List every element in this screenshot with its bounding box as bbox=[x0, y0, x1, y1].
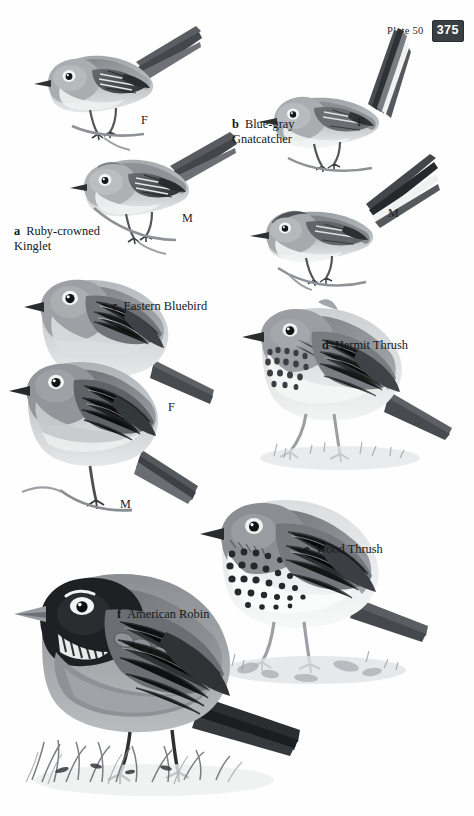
gnatcatcher-male-illustration bbox=[238, 140, 448, 290]
mark-bluebird-male: M bbox=[120, 497, 131, 512]
caption-blue-gray-gnatcatcher: bBlue-gray Gnatcatcher bbox=[232, 102, 294, 147]
species-name-d: Hermit Thrush bbox=[335, 338, 408, 352]
bluebird-male-illustration bbox=[0, 340, 210, 540]
figure-eastern-bluebird-male bbox=[0, 340, 210, 540]
figure-blue-gray-gnatcatcher-male bbox=[238, 140, 448, 290]
caption-american-robin: fAmerican Robin bbox=[117, 592, 209, 622]
species-key-d: d bbox=[322, 338, 329, 352]
species-key-c: c bbox=[112, 299, 118, 313]
mark-kinglet-female: F bbox=[141, 113, 148, 128]
mark-gnatcatcher-male: M bbox=[388, 206, 399, 221]
species-key-f: f bbox=[117, 607, 121, 621]
american-robin-illustration bbox=[4, 548, 314, 810]
caption-wood-thrush: eWood Thrush bbox=[304, 527, 383, 557]
mark-gnatcatcher-female: F bbox=[357, 115, 364, 130]
species-name-b: Blue-gray Gnatcatcher bbox=[232, 117, 294, 146]
caption-eastern-bluebird: cEastern Bluebird bbox=[112, 284, 207, 314]
species-name-f: American Robin bbox=[127, 607, 209, 621]
species-name-c: Eastern Bluebird bbox=[124, 299, 208, 313]
species-name-a: Ruby-crowned Kinglet bbox=[14, 224, 100, 253]
figure-american-robin bbox=[4, 548, 314, 810]
plate-page: Plate 50 375 bbox=[0, 0, 474, 816]
mark-kinglet-male: M bbox=[182, 211, 193, 226]
species-key-a: a bbox=[14, 224, 20, 238]
caption-hermit-thrush: dHermit Thrush bbox=[322, 323, 408, 353]
caption-ruby-crowned-kinglet: aRuby-crowned Kinglet bbox=[14, 209, 100, 254]
species-name-e: Wood Thrush bbox=[316, 542, 383, 556]
species-key-b: b bbox=[232, 117, 239, 131]
